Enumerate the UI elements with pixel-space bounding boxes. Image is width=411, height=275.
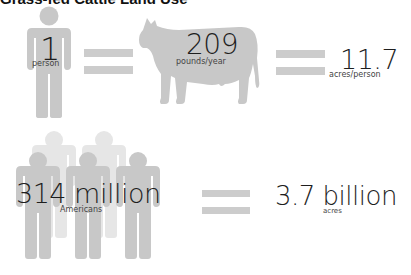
total-acres-value: 3.7 billion bbox=[275, 183, 397, 209]
total-acres-unit-label: acres bbox=[323, 208, 342, 215]
person-unit-label: person bbox=[32, 60, 59, 68]
acres-per-person-unit: acres/person bbox=[329, 71, 381, 79]
population-unit-label: Americans bbox=[60, 206, 102, 214]
cow-unit-label: pounds/year bbox=[176, 58, 226, 66]
acres-per-person-value: 11.7 bbox=[340, 46, 398, 73]
population-value: 314 million bbox=[16, 180, 161, 207]
cow-value: 209 bbox=[186, 31, 238, 59]
